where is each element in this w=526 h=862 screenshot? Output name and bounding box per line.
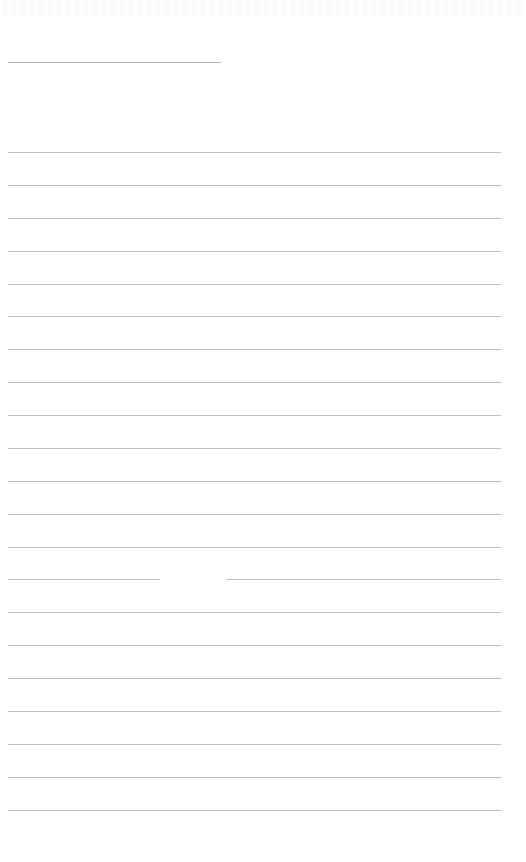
ruled-line [8,481,501,482]
ruled-line [8,579,501,580]
ruled-line [8,251,501,252]
ruled-line [8,349,501,350]
bleed-through-smudge [2,1,522,15]
ruled-line [8,152,501,153]
ruled-line [8,415,501,416]
ruled-line [8,810,501,811]
ruled-line [8,382,501,383]
lined-paper-page [0,0,526,862]
ruled-line [8,185,501,186]
ruled-line [8,711,501,712]
ruled-line [8,744,501,745]
ruled-line [8,284,501,285]
ruled-line [8,514,501,515]
ruled-line [8,218,501,219]
header-rule [8,62,221,63]
rule-gap [160,578,226,581]
ruled-line [8,777,501,778]
ruled-line [8,316,501,317]
ruled-line [8,448,501,449]
ruled-line [8,678,501,679]
ruled-line [8,612,501,613]
ruled-line [8,645,501,646]
ruled-line [8,547,501,548]
